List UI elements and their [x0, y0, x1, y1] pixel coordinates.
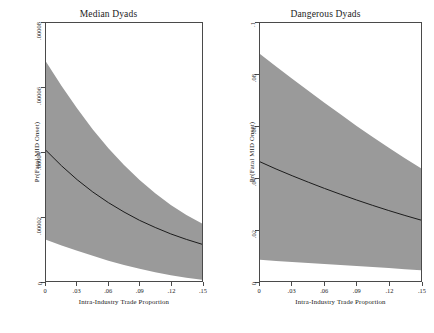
y-tick-label: 0 [36, 282, 43, 285]
x-axis-right: Intra-Industry Trade Proportion 0.03.06.… [259, 282, 422, 312]
y-tick-label: .02 [250, 230, 257, 238]
y-axis-left: Pr(Fatal MID Onset) 0.00002.00004.00006.… [0, 22, 45, 282]
confidence-band [260, 54, 421, 270]
panel-title-median-dyads: Median Dyads [0, 9, 217, 19]
x-tick-mark [139, 282, 140, 286]
y-tick-label: .06 [250, 126, 257, 134]
x-tick-mark [324, 282, 325, 286]
y-axis-right: Pr(Fatal MID Onset) 0.02.04.06.08.1 [217, 22, 259, 282]
x-tick-label: .15 [418, 287, 426, 294]
y-tick-label: .00006 [36, 87, 43, 105]
figure-container: Median Dyads Pr(Fatal MID Onset) 0.00002… [0, 0, 434, 333]
x-tick-label: .12 [167, 287, 175, 294]
x-axis-left: Intra-Industry Trade Proportion 0.03.06.… [45, 282, 203, 312]
x-tick-label: .03 [288, 287, 296, 294]
y-tick-label: .00004 [36, 152, 43, 170]
x-tick-label: 0 [43, 287, 46, 294]
x-tick-mark [171, 282, 172, 286]
x-tick-label: .06 [320, 287, 328, 294]
y-tick-label: 0 [250, 282, 257, 285]
x-tick-mark [356, 282, 357, 286]
y-tick-label: .08 [250, 74, 257, 82]
x-tick-mark [291, 282, 292, 286]
y-tick-label: .1 [250, 22, 257, 27]
x-tick-mark [108, 282, 109, 286]
x-tick-label: 0 [257, 287, 260, 294]
plot-svg-dangerous-dyads [260, 23, 421, 281]
x-tick-label: .15 [199, 287, 207, 294]
y-tick-label: .00008 [36, 22, 43, 40]
plot-area-dangerous-dyads [259, 22, 422, 282]
x-tick-label: .06 [104, 287, 112, 294]
panel-title-dangerous-dyads: Dangerous Dyads [217, 9, 434, 19]
confidence-band [46, 62, 202, 280]
x-tick-mark [76, 282, 77, 286]
x-tick-mark [259, 282, 260, 286]
plot-svg-median-dyads [46, 23, 202, 281]
x-tick-label: .12 [385, 287, 393, 294]
x-tick-mark [389, 282, 390, 286]
x-tick-mark [203, 282, 204, 286]
x-tick-mark [45, 282, 46, 286]
x-tick-label: .09 [353, 287, 361, 294]
panel-median-dyads: Median Dyads Pr(Fatal MID Onset) 0.00002… [0, 0, 217, 333]
x-tick-label: .03 [73, 287, 81, 294]
y-tick-label: .04 [250, 178, 257, 186]
y-tick-label: .00002 [36, 217, 43, 235]
x-axis-title-left: Intra-Industry Trade Proportion [45, 298, 203, 305]
x-tick-label: .09 [136, 287, 144, 294]
panel-dangerous-dyads: Dangerous Dyads Pr(Fatal MID Onset) 0.02… [217, 0, 434, 333]
x-tick-mark [422, 282, 423, 286]
x-axis-title-right: Intra-Industry Trade Proportion [259, 298, 422, 305]
plot-area-median-dyads [45, 22, 203, 282]
